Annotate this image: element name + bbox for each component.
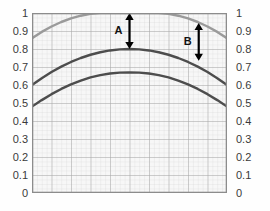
y-tick-label: 0.6 bbox=[236, 80, 251, 91]
y-tick-label: 0.8 bbox=[236, 44, 251, 55]
y-tick-label: 0.8 bbox=[13, 44, 28, 55]
y-tick-label: 0.2 bbox=[13, 152, 28, 163]
y-tick-label: 0.1 bbox=[13, 170, 28, 181]
y-tick-label: 0.2 bbox=[236, 152, 251, 163]
plot-canvas bbox=[32, 13, 227, 193]
y-tick-label: 0.3 bbox=[236, 134, 251, 145]
y-tick-label: 0.3 bbox=[13, 134, 28, 145]
y-tick-label: 0.5 bbox=[236, 98, 251, 109]
y-tick-label: 0.6 bbox=[13, 80, 28, 91]
y-tick-label: 0.9 bbox=[13, 26, 28, 37]
y-tick-label: 0.4 bbox=[13, 116, 28, 127]
annotation-label-A: A bbox=[115, 25, 123, 36]
y-tick-label: 0 bbox=[22, 188, 28, 199]
chart-figure: 10.90.80.70.60.50.40.30.20.10 bbox=[0, 0, 270, 211]
right-y-axis: 10.90.80.70.60.50.40.30.20.10 bbox=[232, 0, 266, 211]
y-tick-label: 0.7 bbox=[236, 62, 251, 73]
y-tick-label: 0 bbox=[236, 188, 242, 199]
y-tick-label: 0.4 bbox=[236, 116, 251, 127]
annotation-label-B: B bbox=[184, 36, 192, 47]
y-tick-label: 1 bbox=[22, 8, 28, 19]
y-tick-label: 0.7 bbox=[13, 62, 28, 73]
plot-area: AB bbox=[32, 13, 227, 193]
left-y-axis: 10.90.80.70.60.50.40.30.20.10 bbox=[0, 0, 30, 211]
y-tick-label: 1 bbox=[236, 8, 242, 19]
y-tick-label: 0.9 bbox=[236, 26, 251, 37]
y-tick-label: 0.1 bbox=[236, 170, 251, 181]
y-tick-label: 0.5 bbox=[13, 98, 28, 109]
